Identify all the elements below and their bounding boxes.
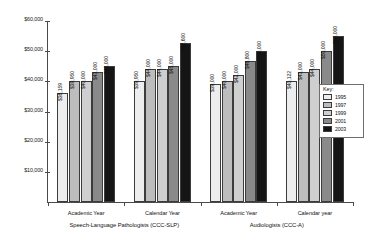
legend-swatch — [323, 102, 332, 108]
legend-title: Key: — [323, 87, 360, 92]
bar: $42,000 — [233, 75, 244, 202]
bar-value-label: $45,000 — [168, 56, 174, 74]
plot-area: $36,159$39,950$40,000$43,000$45,000$39,9… — [48, 21, 353, 202]
y-axis-tick-label: $50,000 — [24, 46, 43, 52]
x-axis-separator — [124, 202, 125, 206]
x-axis-separator — [353, 202, 354, 206]
legend-swatch — [323, 118, 332, 124]
bar-group: $39,950$44,000$44,000$45,000$52,600 — [124, 21, 200, 202]
bar: $52,600 — [180, 43, 191, 202]
category-label: Calendar year — [277, 210, 353, 216]
bar: $39,000 — [210, 84, 221, 202]
bar: $45,000 — [104, 66, 115, 202]
x-axis-separator — [277, 202, 278, 206]
bar: $39,950 — [69, 81, 80, 202]
bar-value-label: $43,000 — [297, 62, 303, 80]
y-axis-tick-label: $40,000 — [24, 76, 43, 82]
bar-value-label: $39,950 — [133, 71, 139, 89]
bar: $36,159 — [57, 93, 68, 202]
bar: $44,000 — [157, 69, 168, 202]
legend-item: 1995 — [323, 94, 360, 101]
legend-item: 2001 — [323, 118, 360, 125]
legend-swatch — [323, 110, 332, 116]
bar: $40,122 — [286, 81, 297, 202]
legend-items: 19951997199920012003 — [323, 94, 360, 133]
bar: $40,000 — [222, 81, 233, 202]
bar-value-label: $50,000 — [320, 41, 326, 59]
legend-label: 1999 — [335, 111, 346, 116]
legend-item: 1997 — [323, 102, 360, 109]
bar: $43,000 — [92, 72, 103, 202]
legend-label: 2001 — [335, 119, 346, 124]
section-label: Audiologists (CCC-A) — [201, 222, 354, 228]
bar-value-label: $43,000 — [92, 62, 98, 80]
bar-value-label: $39,950 — [69, 71, 75, 89]
y-axis-tick-label: $60,000 — [24, 16, 43, 22]
bar: $50,000 — [256, 51, 267, 202]
category-label: Academic Year — [201, 210, 277, 216]
y-axis-tick-label: $30,000 — [24, 107, 43, 113]
bar-value-label: $52,600 — [180, 33, 186, 51]
bar-value-label: $40,000 — [221, 71, 227, 89]
legend-label: 2003 — [335, 127, 346, 132]
legend-swatch — [323, 94, 332, 100]
bar-value-label: $39,000 — [209, 74, 215, 92]
bar: $44,000 — [145, 69, 156, 202]
bar-group: $39,000$40,000$42,000$46,800$50,000 — [201, 21, 277, 202]
bar-value-label: $55,000 — [332, 26, 338, 44]
bar: $39,950 — [134, 81, 145, 202]
legend-item: 1999 — [323, 110, 360, 117]
bar-value-label: $50,000 — [256, 41, 262, 59]
legend-label: 1995 — [335, 95, 346, 100]
bar-value-label: $44,000 — [156, 59, 162, 77]
category-label: Academic Year — [48, 210, 124, 216]
bar-value-label: $42,000 — [233, 65, 239, 83]
legend: Key: 19951997199920012003 — [319, 84, 364, 138]
bar: $40,000 — [81, 81, 92, 202]
section-label: Speech-Language Pathologists (CCC-SLP) — [48, 222, 201, 228]
category-label: Calendar Year — [124, 210, 200, 216]
bar-group: $36,159$39,950$40,000$43,000$45,000 — [48, 21, 124, 202]
bar: $46,800 — [245, 61, 256, 202]
legend-swatch — [323, 126, 332, 132]
salary-bar-chart: $10,000$20,000$30,000$40,000$50,000$60,0… — [0, 0, 375, 252]
bar-value-label: $40,122 — [286, 71, 292, 89]
bar-value-label: $40,000 — [80, 71, 86, 89]
bar-value-label: $45,000 — [103, 56, 109, 74]
bar: $45,000 — [168, 66, 179, 202]
bar-value-label: $36,159 — [57, 83, 63, 101]
bar: $43,000 — [298, 72, 309, 202]
x-axis-separator — [201, 202, 202, 206]
bar-value-label: $46,800 — [244, 51, 250, 69]
legend-item: 2003 — [323, 126, 360, 133]
bar-value-label: $44,000 — [309, 59, 315, 77]
y-axis-tick-label: $20,000 — [24, 137, 43, 143]
y-axis-tick-label: $10,000 — [24, 167, 43, 173]
bar-value-label: $44,000 — [145, 59, 151, 77]
x-axis-separator — [48, 202, 49, 206]
legend-label: 1997 — [335, 103, 346, 108]
